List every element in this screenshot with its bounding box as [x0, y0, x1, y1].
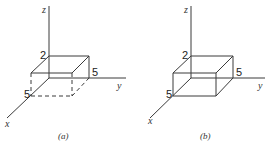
height-label: 2 [182, 49, 188, 61]
y-axis-label: y [257, 80, 263, 91]
y-axis-label: y [116, 80, 122, 91]
box-bottom-right-edge [72, 78, 89, 96]
width-label: 5 [92, 66, 98, 78]
x-axis-label: x [147, 115, 153, 126]
height-label: 2 [40, 49, 46, 61]
panel-b: z y x 2 5 5 (b) [147, 4, 265, 141]
caption-a: (a) [58, 131, 69, 141]
box-bottom-right-edge [216, 78, 233, 96]
z-axis-label: z [41, 4, 46, 15]
caption-b: (b) [200, 131, 211, 141]
z-axis-label: z [183, 4, 188, 15]
depth-label: 5 [24, 88, 30, 100]
width-label: 5 [236, 66, 242, 78]
diagram-canvas: z y x 2 5 5 (a) z y x 2 5 5 (b) [0, 0, 273, 148]
depth-label: 5 [166, 88, 172, 100]
x-axis-label: x [4, 118, 10, 129]
panel-a: z y x 2 5 5 (a) [4, 4, 126, 141]
